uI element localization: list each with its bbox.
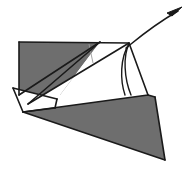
origami-diagram-figure bbox=[0, 0, 193, 180]
origami-diagram-canvas bbox=[0, 0, 193, 180]
top-edge bbox=[19, 42, 129, 43]
